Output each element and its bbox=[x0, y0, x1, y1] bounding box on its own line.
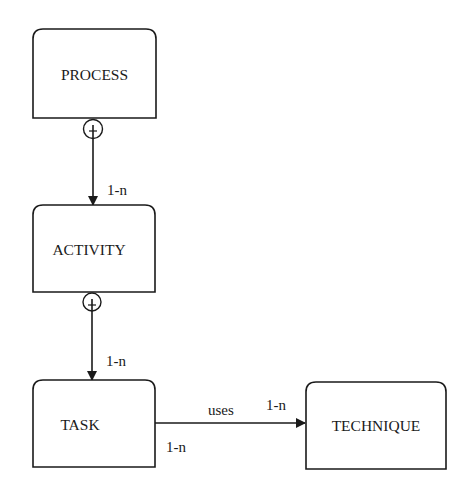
source-cardinality-label: 1-n bbox=[166, 439, 186, 455]
cardinality-label: 1-n bbox=[106, 353, 126, 369]
er-diagram: PROCESS 1-n ACTIVITY 1-n TASK uses 1-n 1… bbox=[0, 0, 462, 496]
node-task[interactable]: TASK bbox=[33, 380, 155, 467]
node-activity[interactable]: ACTIVITY bbox=[33, 205, 155, 292]
relationship-label: uses bbox=[208, 402, 234, 418]
node-technique-label: TECHNIQUE bbox=[332, 417, 421, 434]
edge-activity-task: 1-n bbox=[83, 293, 126, 380]
cardinality-label: 1-n bbox=[107, 182, 127, 198]
edge-process-activity: 1-n bbox=[84, 120, 128, 206]
node-technique[interactable]: TECHNIQUE bbox=[306, 382, 446, 469]
node-process-label: PROCESS bbox=[61, 66, 128, 83]
edge-task-technique: uses 1-n 1-n bbox=[155, 397, 305, 455]
node-process[interactable]: PROCESS bbox=[33, 29, 156, 118]
node-task-label: TASK bbox=[60, 416, 100, 433]
node-activity-label: ACTIVITY bbox=[52, 241, 125, 258]
target-cardinality-label: 1-n bbox=[266, 397, 286, 413]
